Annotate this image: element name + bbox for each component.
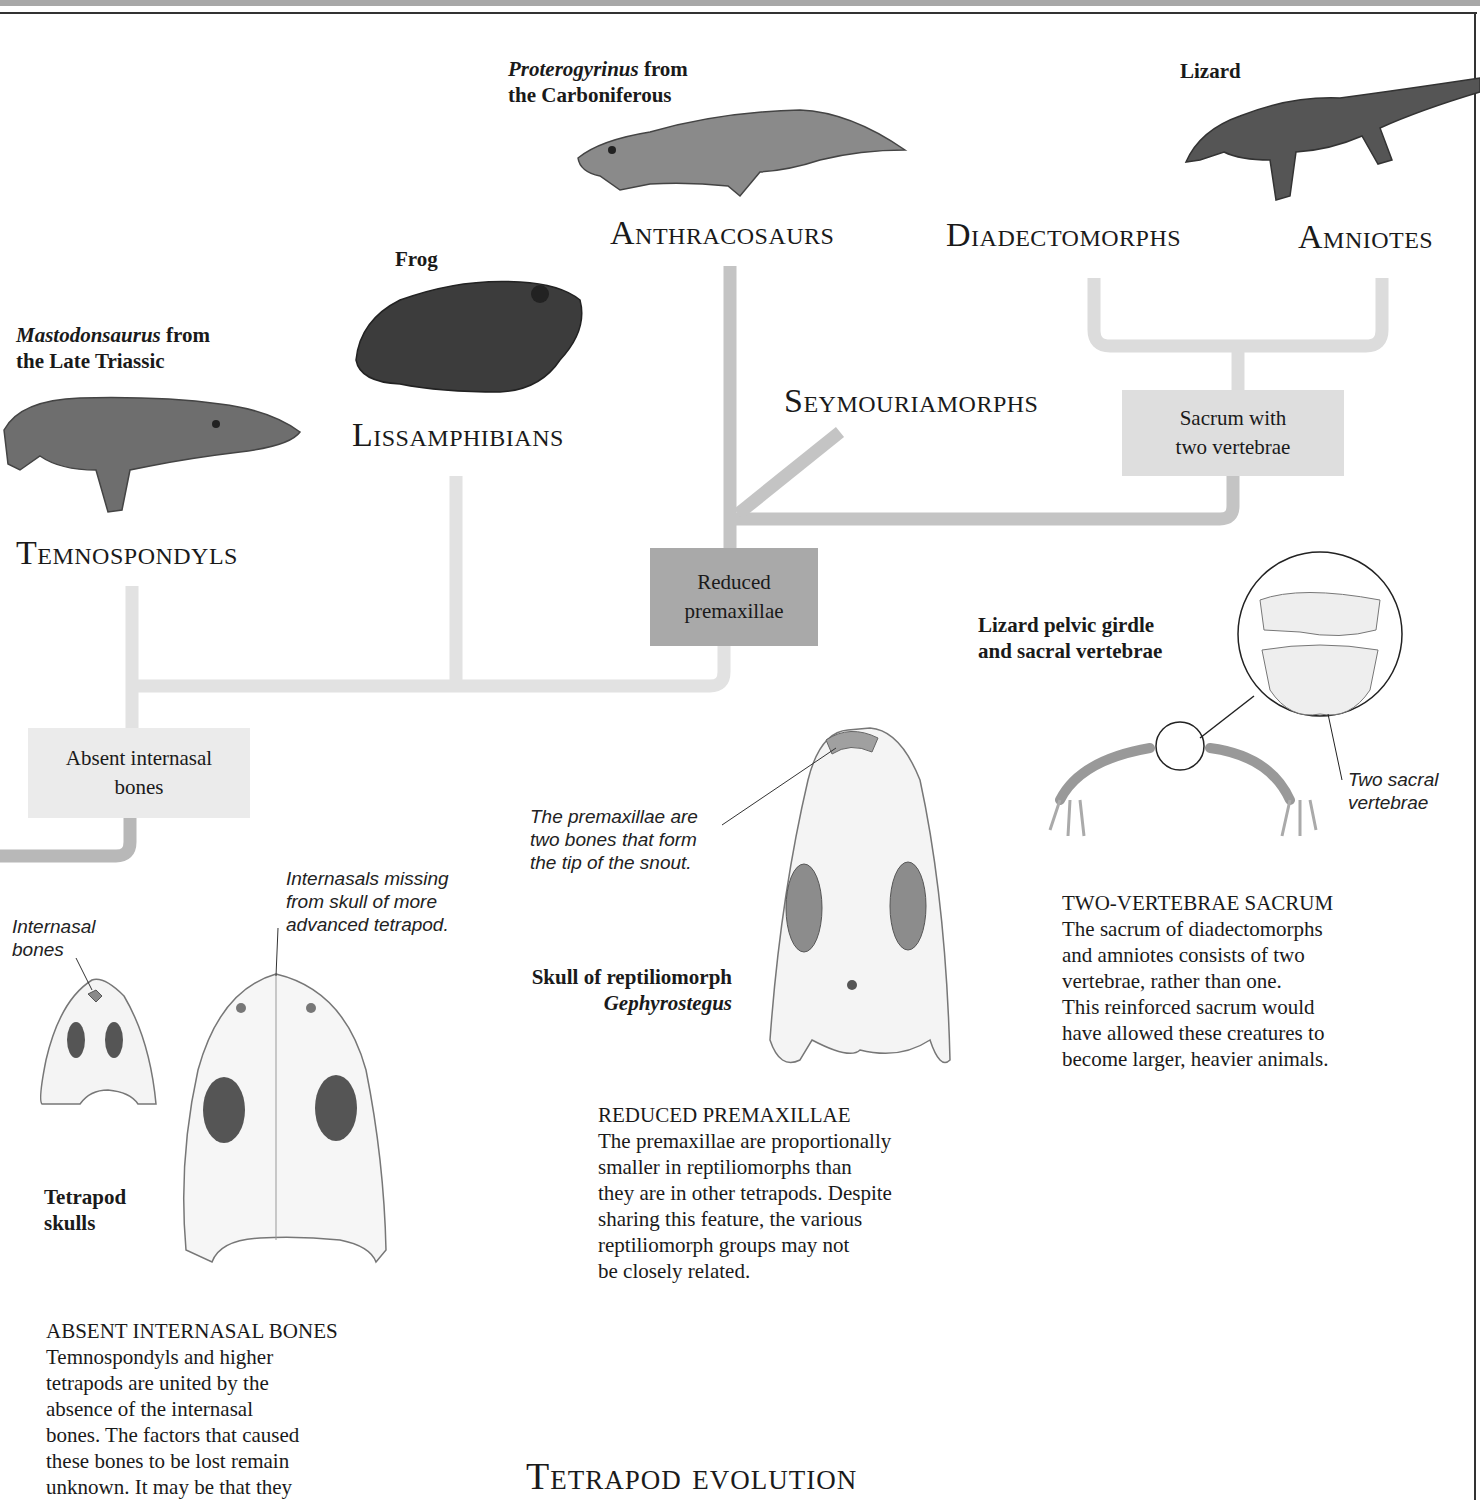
caption-proterogyrinus: Proterogyrinus from the Carboniferous [508, 56, 688, 108]
lizard-illustration [1186, 78, 1480, 200]
note-premaxillae: The premaxillae are two bones that form … [530, 805, 698, 874]
branch-internasal-out [0, 818, 130, 856]
branch-reptiliomorph-main [736, 476, 1233, 519]
caption-lizard: Lizard [1180, 58, 1241, 84]
note-internasal-bones: Internasal bones [12, 915, 95, 961]
section-absent-internasal-bones: ABSENT INTERNASAL BONES Temnospondyls an… [46, 1318, 446, 1500]
frog-illustration [356, 281, 582, 392]
note-internasals-missing: Internasals missing from skull of more a… [286, 867, 449, 936]
proterogyrinus-illustration [578, 110, 905, 196]
clade-temnospondyls: Temnospondyls [16, 536, 238, 570]
gephyrostegus-skull-illustration [722, 728, 950, 1063]
character-box-sacrum: Sacrum withtwo vertebrae [1122, 390, 1344, 476]
clade-anthracosaurs: Anthracosaurs [610, 216, 834, 250]
note-two-sacral-vertebrae: Two sacralvertebrae [1348, 768, 1438, 814]
clade-amniotes: Amniotes [1298, 220, 1433, 254]
branch-diadecto-amniotes [1094, 278, 1382, 346]
page-title: Tetrapod evolution [526, 1454, 857, 1498]
branch-premax-down [136, 644, 724, 686]
caption-gephyrostegus-skull: Skull of reptiliomorphGephyrostegus [494, 964, 732, 1016]
mastodonsaurus-illustration [4, 398, 300, 512]
caption-pelvic-girdle: Lizard pelvic girdleand sacral vertebrae [978, 612, 1162, 664]
caption-frog: Frog [395, 246, 438, 272]
clade-seymouriamorphs: Seymouriamorphs [784, 384, 1038, 418]
section-heading: ABSENT INTERNASAL BONES [46, 1318, 446, 1344]
character-box-premaxillae: Reducedpremaxillae [650, 548, 818, 646]
small-skull-illustration [41, 958, 156, 1104]
section-two-vertebrae-sacrum: TWO-VERTEBRAE SACRUM The sacrum of diade… [1062, 890, 1462, 1072]
clade-diadectomorphs: Diadectomorphs [946, 218, 1181, 252]
large-skull-illustration [184, 928, 386, 1262]
section-reduced-premaxillae: REDUCED PREMAXILLAE The premaxillae are … [598, 1102, 998, 1284]
clade-lissamphibians: Lissamphibians [352, 418, 564, 452]
branch-seymouriamorphs [738, 432, 840, 514]
section-heading: TWO-VERTEBRAE SACRUM [1062, 890, 1462, 916]
character-box-internasal: Absent internasalbones [28, 728, 250, 818]
caption-tetrapod-skulls: Tetrapodskulls [44, 1184, 126, 1236]
caption-mastodonsaurus: Mastodonsaurus from the Late Triassic [16, 322, 210, 374]
section-heading: REDUCED PREMAXILLAE [598, 1102, 998, 1128]
